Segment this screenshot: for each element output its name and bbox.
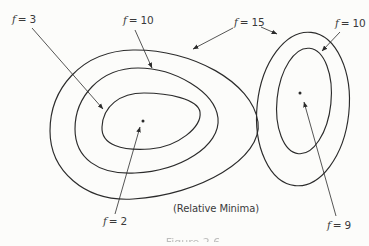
figure-canvas: f= 3 f= 10 f= 15 f= 10 f= 2 f= 9 (Relati…: [0, 0, 369, 246]
contour-left-outer-f15: [50, 50, 258, 199]
leader-arrow-f15-right: [261, 27, 277, 34]
contour-left-middle-f10: [75, 68, 218, 173]
leader-arrow-f10-right: [322, 32, 340, 51]
f2-value: = 2: [109, 215, 127, 227]
leader-arrow-f10-left: [135, 30, 152, 68]
minimum-label-f9: f= 9: [327, 220, 351, 231]
f10-left-value: = 10: [129, 14, 154, 26]
f-symbol: f: [335, 17, 339, 29]
figure-number-caption-partial: Figure 2.6: [148, 236, 238, 242]
contour-label-f10-right: f= 10: [335, 18, 365, 29]
right-minimum-dot: [299, 92, 302, 95]
f-symbol: f: [12, 13, 16, 25]
f3-value: = 3: [18, 13, 36, 25]
f15-value: = 15: [240, 16, 265, 28]
relative-minima-caption: (Relative Minima): [173, 203, 259, 215]
leader-arrow-f9: [304, 102, 336, 216]
f-symbol: f: [103, 215, 107, 227]
minimum-label-f2: f= 2: [103, 216, 127, 227]
contour-right-inner-f10: [272, 45, 337, 156]
leader-arrow-f2: [115, 127, 140, 214]
f10-right-value: = 10: [341, 17, 366, 29]
f9-value: = 9: [333, 219, 351, 231]
contour-label-f10-left: f= 10: [123, 15, 153, 26]
f-symbol: f: [327, 219, 331, 231]
f-symbol: f: [234, 16, 238, 28]
f-symbol: f: [123, 14, 127, 26]
contour-label-f15: f= 15: [234, 17, 264, 28]
leader-arrow-f3: [32, 28, 103, 109]
leader-arrow-f15-left: [193, 28, 233, 49]
contour-label-f3: f= 3: [12, 14, 36, 25]
contour-left-inner-f3: [102, 93, 200, 149]
left-minimum-dot: [142, 120, 145, 123]
contour-right-outer-f15: [249, 28, 357, 191]
